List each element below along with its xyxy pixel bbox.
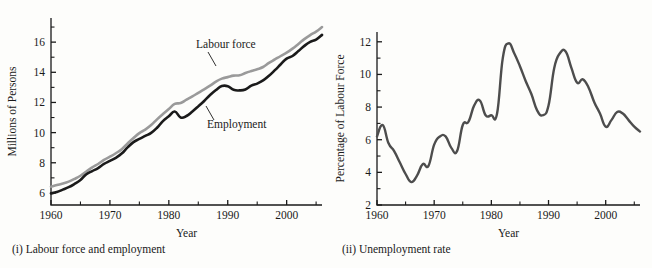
y-tick-label: 4 bbox=[365, 166, 371, 178]
x-tick-label: 1990 bbox=[537, 209, 560, 221]
series-line-unemployment-rate bbox=[377, 43, 640, 182]
y-axis-title: Millions of Persons bbox=[6, 66, 18, 157]
y-tick-label: 6 bbox=[365, 134, 371, 146]
series-line-labour-force bbox=[51, 27, 322, 187]
figure-container: 681012141619601970198019902000YearMillio… bbox=[0, 0, 652, 268]
x-axis-title: Year bbox=[498, 227, 519, 239]
annotation-employment: Employment bbox=[207, 118, 267, 131]
annotation-leader-labour-force bbox=[208, 52, 216, 66]
x-tick-label: 1980 bbox=[480, 209, 503, 221]
caption-panel-ii: (ii) Unemployment rate bbox=[342, 243, 451, 255]
annotation-labour-force: Labour force bbox=[196, 38, 256, 50]
y-axis-title: Percentage of Labour Force bbox=[334, 54, 347, 182]
panel-unemployment-rate: 2468101219601970198019902000YearPercenta… bbox=[330, 0, 652, 268]
y-tick-label: 12 bbox=[34, 96, 46, 108]
y-tick-label: 14 bbox=[34, 66, 46, 78]
caption-panel-i: (i) Labour force and employment bbox=[12, 243, 165, 255]
x-tick-label: 1960 bbox=[366, 209, 389, 221]
y-tick-label: 8 bbox=[39, 157, 45, 169]
x-axis-title: Year bbox=[176, 227, 197, 239]
x-tick-label: 1970 bbox=[423, 209, 446, 221]
y-tick-label: 6 bbox=[39, 187, 45, 199]
series-line-employment bbox=[51, 35, 322, 194]
axis-spine bbox=[51, 18, 322, 205]
panel-labour-force-and-employment: 681012141619601970198019902000YearMillio… bbox=[0, 0, 330, 268]
x-tick-label: 1970 bbox=[98, 209, 121, 221]
x-tick-label: 2000 bbox=[594, 209, 617, 221]
x-tick-label: 1980 bbox=[157, 209, 180, 221]
axis-spine bbox=[377, 32, 640, 205]
y-tick-label: 16 bbox=[34, 36, 46, 48]
y-tick-label: 10 bbox=[360, 68, 372, 80]
y-tick-label: 10 bbox=[34, 127, 46, 139]
y-tick-label: 8 bbox=[365, 101, 371, 113]
x-tick-label: 1960 bbox=[40, 209, 63, 221]
x-tick-label: 2000 bbox=[275, 209, 298, 221]
chart-labour-force-and-employment: 681012141619601970198019902000YearMillio… bbox=[0, 0, 330, 240]
x-tick-label: 1990 bbox=[216, 209, 239, 221]
chart-unemployment-rate: 2468101219601970198019902000YearPercenta… bbox=[330, 0, 652, 240]
y-tick-label: 12 bbox=[360, 36, 372, 48]
